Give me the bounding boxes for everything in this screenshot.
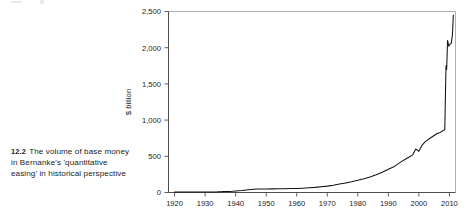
x-tick-label: 2010 <box>441 199 458 208</box>
x-tick-label: 1990 <box>380 199 397 208</box>
x-tick-label: 1930 <box>197 199 214 208</box>
x-tick-label: 1950 <box>258 199 275 208</box>
x-tick-label: 1970 <box>319 199 336 208</box>
x-tick-label: 1960 <box>288 199 305 208</box>
y-tick-label: 0 <box>157 188 161 197</box>
data-series-group <box>175 15 454 192</box>
y-tick-label: 2,500 <box>142 7 161 16</box>
y-tick-label: 2,000 <box>142 44 161 53</box>
figure-panel: 12.2The volume of base money in Bernanke… <box>0 0 466 221</box>
chart-plot-area: 05001,0001,5002,0002,500 192019301940195… <box>0 0 466 221</box>
y-tick-label: 1,000 <box>142 116 161 125</box>
y-tick-label: 1,500 <box>142 80 161 89</box>
x-tick-label: 2000 <box>410 199 427 208</box>
y-axis-title: $ billion <box>124 89 133 115</box>
chart-frame <box>169 12 456 193</box>
x-tick-label: 1920 <box>166 199 183 208</box>
series-line <box>175 15 454 192</box>
y-tick-label: 500 <box>148 152 161 161</box>
x-tick-label: 1940 <box>227 199 244 208</box>
line-chart: 05001,0001,5002,0002,500 192019301940195… <box>0 0 466 221</box>
x-axis-ticks: 1920193019401950196019701980199020002010 <box>166 193 458 208</box>
x-tick-label: 1980 <box>349 199 366 208</box>
y-axis-ticks: 05001,0001,5002,0002,500 <box>142 7 169 197</box>
y-axis-label: $ billion <box>124 89 133 115</box>
